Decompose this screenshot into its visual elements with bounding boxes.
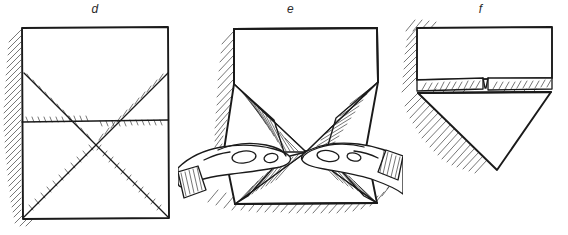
panel-e-drawing: [178, 0, 403, 235]
figure-root: d: [0, 0, 568, 235]
lower-triangular-point: [418, 92, 551, 170]
top-face-edges: [234, 28, 377, 29]
panel-d-drawing: [0, 0, 190, 235]
top-face-right-edge: [377, 28, 378, 82]
left-folded-flap: [417, 78, 483, 91]
panel-e: e: [178, 0, 403, 235]
square-sheet: [22, 27, 169, 219]
panel-f: f: [393, 0, 568, 235]
triangular-point-top-edge: [418, 92, 551, 93]
panel-f-drawing: [393, 0, 568, 235]
collapsing-sheet: [224, 28, 378, 204]
bottom-edge: [235, 203, 377, 204]
top-rectangular-face: [417, 27, 552, 80]
panel-d: d: [0, 0, 190, 235]
